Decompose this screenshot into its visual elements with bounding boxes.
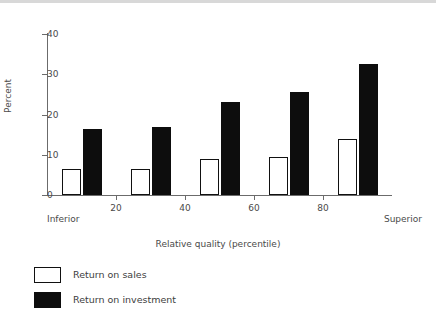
- x-tick: [116, 195, 117, 200]
- x-tick-label: 20: [110, 203, 121, 213]
- x-tick: [254, 195, 255, 200]
- y-axis-title: Percent: [3, 79, 13, 113]
- bar-investment: [152, 127, 171, 195]
- bar-investment: [221, 102, 240, 195]
- x-tick: [185, 195, 186, 200]
- legend-item-label: Return on sales: [73, 269, 147, 280]
- open-square-swatch-icon: [34, 267, 61, 283]
- bar-sales: [200, 159, 219, 195]
- bar-sales: [62, 169, 81, 195]
- bar-sales: [338, 139, 357, 195]
- legend-item-label: Return on investment: [73, 294, 176, 305]
- x-axis-title: Relative quality (percentile): [156, 239, 281, 249]
- plot-area: 010203040 20406080: [47, 33, 392, 196]
- bar-investment: [290, 92, 309, 195]
- x-axis-right-end-label: Superior: [384, 214, 422, 224]
- bar-investment: [83, 129, 102, 195]
- bar-investment: [359, 64, 378, 195]
- x-tick: [323, 195, 324, 200]
- bar-sales: [269, 157, 288, 195]
- x-tick-label: 80: [317, 203, 328, 213]
- top-gray-rule: [0, 0, 436, 3]
- bar-sales: [131, 169, 150, 195]
- x-tick-label: 60: [248, 203, 259, 213]
- chart-figure: Percent 010203040 20406080 Inferior Supe…: [0, 0, 436, 322]
- filled-square-swatch-icon: [34, 292, 61, 308]
- x-axis-left-end-label: Inferior: [47, 214, 79, 224]
- x-axis-line: [47, 195, 392, 196]
- x-tick-label: 40: [179, 203, 190, 213]
- top-decoration-band: [0, 0, 436, 4]
